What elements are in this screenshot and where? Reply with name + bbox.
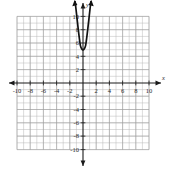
x-tick-label: -6 (41, 87, 47, 94)
x-tick-label: 10 (146, 87, 153, 94)
x-tick-label: -2 (67, 87, 72, 94)
y-tick-label: -10 (70, 146, 79, 153)
y-tick-label: 2 (76, 66, 79, 73)
x-tick-label: 2 (95, 87, 98, 94)
x-tick-label: 8 (134, 87, 137, 94)
y-tick-label: -4 (74, 106, 80, 113)
graph-svg: -10 -8 -6 -4 -2 2 4 6 8 10 10 8 6 4 2 -2… (0, 0, 171, 172)
x-tick-label: -4 (54, 87, 60, 94)
x-axis-label: x (161, 74, 165, 81)
coordinate-plane-graph: -10 -8 -6 -4 -2 2 4 6 8 10 10 8 6 4 2 -2… (0, 0, 171, 172)
y-axis-label: y (85, 1, 89, 8)
y-tick-label: -2 (74, 92, 79, 99)
y-tick-label: -6 (74, 119, 80, 126)
x-tick-label: -10 (13, 87, 22, 94)
y-tick-label: -8 (74, 132, 79, 139)
x-tick-label: -8 (27, 87, 32, 94)
